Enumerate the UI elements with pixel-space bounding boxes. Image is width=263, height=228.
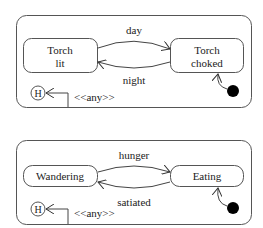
initial-transition-arrow bbox=[218, 188, 227, 206]
transition-label-hunger: hunger bbox=[119, 149, 150, 161]
history-trigger-label: <<any>> bbox=[74, 91, 115, 103]
state-torch-choked: Torch choked bbox=[171, 39, 244, 73]
initial-state-dot bbox=[227, 85, 239, 97]
state-wandering: Wandering bbox=[24, 166, 98, 187]
state-label-line2: choked bbox=[191, 57, 223, 69]
creature-statechart: Wandering Eating hunger satiated H <<any… bbox=[17, 141, 252, 225]
state-torch-lit: Torch lit bbox=[24, 39, 98, 73]
transition-day-arrow bbox=[98, 41, 170, 49]
initial-transition-arrow bbox=[218, 74, 227, 89]
transition-label-satiated: satiated bbox=[117, 196, 151, 208]
state-eating: Eating bbox=[171, 166, 244, 187]
transition-label-night: night bbox=[123, 74, 146, 86]
history-state: H bbox=[31, 202, 45, 216]
history-label: H bbox=[34, 88, 41, 99]
transition-hunger-arrow bbox=[98, 166, 170, 172]
history-state: H bbox=[31, 86, 45, 100]
initial-state-dot bbox=[227, 202, 239, 214]
state-label: Wandering bbox=[36, 170, 84, 182]
history-transition-arrow bbox=[46, 209, 68, 224]
history-transition-arrow bbox=[46, 93, 68, 107]
transition-label-day: day bbox=[126, 24, 142, 36]
transition-satiated-arrow bbox=[98, 182, 170, 188]
state-label: Eating bbox=[193, 170, 222, 182]
transition-night-arrow bbox=[98, 62, 170, 68]
state-label-line1: Torch bbox=[47, 44, 73, 56]
history-label: H bbox=[34, 204, 41, 215]
state-label-line1: Torch bbox=[194, 44, 220, 56]
state-label-line2: lit bbox=[55, 57, 64, 69]
torch-statechart: Torch lit Torch choked day night H <<any… bbox=[17, 16, 252, 108]
history-trigger-label: <<any>> bbox=[74, 207, 115, 219]
